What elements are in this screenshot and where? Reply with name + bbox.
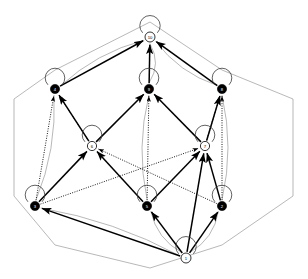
solid-edge bbox=[96, 94, 144, 142]
solid-edges bbox=[39, 41, 220, 256]
lattice-node[interactable]: 5 bbox=[142, 201, 151, 210]
lattice-node[interactable]: 10 bbox=[145, 32, 155, 42]
dotted-edge bbox=[147, 96, 149, 200]
open-node-marker bbox=[181, 253, 191, 263]
dotted-edges bbox=[36, 95, 222, 204]
solid-edge bbox=[207, 96, 220, 140]
self-loop-edges bbox=[25, 16, 232, 254]
lattice-node[interactable]: 9 bbox=[144, 84, 153, 93]
open-node-marker bbox=[200, 141, 209, 150]
lattice-node[interactable]: 8 bbox=[217, 84, 226, 93]
solid-edge bbox=[190, 212, 218, 253]
lattice-node[interactable]: 1 bbox=[181, 253, 191, 263]
lattice-node[interactable]: 6 bbox=[87, 141, 96, 150]
solid-edge bbox=[59, 95, 89, 141]
lattice-diagram: 10498673521 bbox=[0, 0, 308, 279]
diagram-canvas: 10498673521 bbox=[0, 0, 308, 279]
outline-edge bbox=[222, 95, 228, 200]
solid-edge bbox=[156, 42, 217, 86]
filled-node-marker bbox=[30, 201, 39, 210]
lattice-node[interactable]: 2 bbox=[217, 201, 226, 210]
open-node-marker bbox=[145, 32, 155, 42]
lattice-node[interactable]: 3 bbox=[30, 201, 39, 210]
lattice-nodes: 10498673521 bbox=[30, 32, 226, 263]
solid-edge bbox=[151, 212, 182, 253]
solid-edge bbox=[149, 45, 150, 83]
solid-edge bbox=[39, 151, 87, 201]
lattice-node[interactable]: 4 bbox=[50, 84, 59, 93]
frame-polygon bbox=[14, 22, 293, 268]
lattice-node[interactable]: 7 bbox=[200, 141, 209, 150]
solid-edge bbox=[60, 41, 143, 86]
self-loop bbox=[212, 68, 232, 85]
solid-edge bbox=[154, 94, 201, 142]
filled-node-marker bbox=[142, 201, 151, 210]
filled-node-marker bbox=[144, 84, 153, 93]
filled-node-marker bbox=[217, 84, 226, 93]
open-node-marker bbox=[87, 141, 96, 150]
self-loop bbox=[140, 16, 160, 33]
outline-edge bbox=[142, 95, 149, 200]
filled-node-marker bbox=[50, 84, 59, 93]
self-loop bbox=[45, 68, 65, 85]
cube-frame-outline bbox=[14, 22, 293, 268]
solid-edge bbox=[151, 151, 200, 202]
filled-node-marker bbox=[217, 201, 226, 210]
solid-edge bbox=[207, 153, 220, 200]
